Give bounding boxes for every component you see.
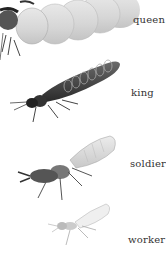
caste-label-soldier: soldier: [130, 158, 166, 169]
queen-termite: [0, 0, 140, 60]
caste-label-king: king: [131, 87, 154, 98]
soldier-termite: [18, 136, 115, 200]
caste-label-queen: queen: [133, 14, 165, 25]
termite-illustration: [0, 0, 166, 261]
worker-termite: [48, 204, 110, 245]
caste-label-worker: worker: [128, 234, 165, 245]
king-termite: [10, 60, 120, 122]
